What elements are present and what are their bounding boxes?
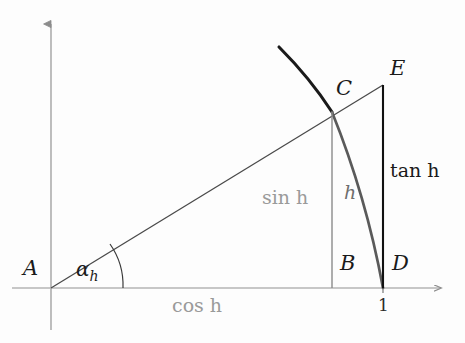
point-label-B: B [340, 253, 355, 274]
label-sin-h: sin h [262, 188, 308, 207]
point-label-D: D [392, 253, 409, 274]
label-arc-h: h [344, 183, 356, 202]
angle-label-subscript: h [90, 268, 99, 284]
trig-diagram-figure: A B C D E cos h sin h tan h h αh 1 [0, 0, 465, 343]
point-label-A: A [23, 258, 38, 279]
point-label-C: C [336, 78, 352, 99]
label-cos-h: cos h [172, 296, 222, 315]
unit-circle-arc [279, 47, 332, 112]
x-tick-label-one: 1 [378, 297, 389, 314]
angle-label-base: α [76, 257, 90, 281]
angle-label-alpha-h: αh [76, 259, 99, 283]
label-tan-h: tan h [390, 161, 439, 180]
point-label-E: E [390, 58, 405, 79]
